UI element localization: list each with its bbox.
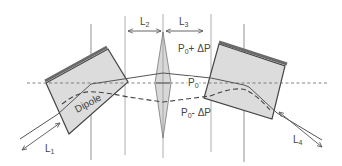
l1-arrow [22, 123, 60, 150]
l1-label: L1 [45, 143, 55, 155]
l4-label: L4 [293, 134, 303, 146]
p-minus-label: P0- ΔP [181, 107, 211, 119]
l2-label: L2 [140, 16, 150, 28]
l3-label: L3 [179, 16, 189, 28]
right-dipole [204, 42, 287, 119]
p-nominal-label: P0 [188, 77, 199, 89]
left-dipole: Dipole [45, 47, 128, 134]
p-plus-label: P0+ ΔP [178, 43, 211, 55]
beamline-diagram: Dipole L1 L2 L3 L4 P0+ ΔP P0 P0- ΔP [0, 0, 342, 166]
lens [155, 32, 171, 138]
